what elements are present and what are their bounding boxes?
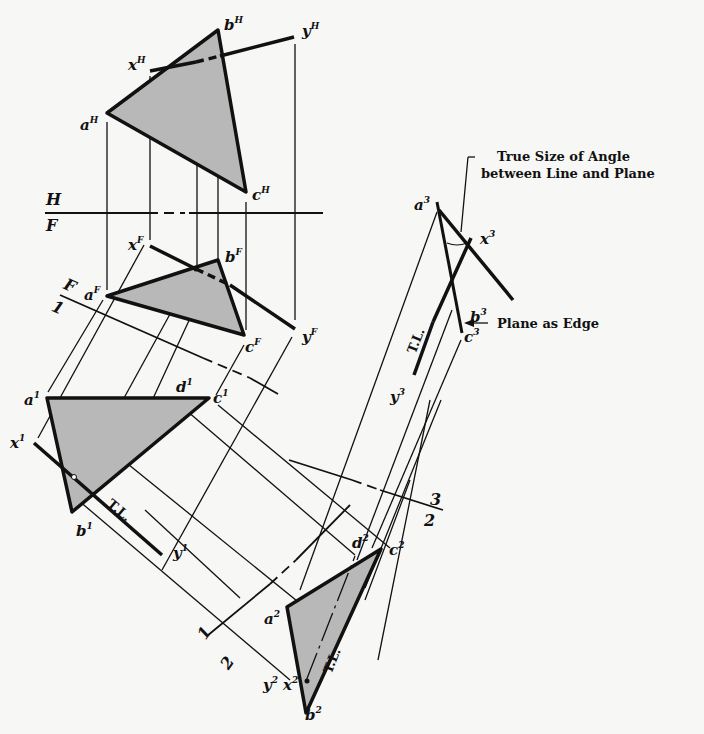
true-size-line1: True Size of Angle <box>481 148 655 165</box>
label-cF: cF <box>245 340 261 355</box>
label-aH: aH <box>80 118 98 133</box>
label-c3: c3 <box>464 330 479 345</box>
label-x3: x3 <box>480 232 495 247</box>
label-yH: yH <box>302 24 319 39</box>
fold-label-H: H <box>46 192 61 208</box>
label-d1: d1 <box>176 380 193 395</box>
plane-as-edge-note: Plane as Edge <box>497 315 599 332</box>
label-x2: x2 <box>283 678 298 693</box>
angle-arc <box>447 243 467 245</box>
label-y3: y3 <box>390 390 405 405</box>
descriptive-geometry-drawing: H F F 1 1 2 3 2 aH bH cH xH yH aF bF cF … <box>0 0 704 734</box>
label-aF: aF <box>84 288 100 303</box>
label-a1: a1 <box>24 393 40 408</box>
true-size-line2: between Line and Plane <box>481 165 655 182</box>
label-yF: yF <box>302 330 317 345</box>
true-size-angle-note: True Size of Angle between Line and Plan… <box>481 148 655 182</box>
label-d2: d2 <box>352 536 369 551</box>
label-cH: cH <box>252 188 270 203</box>
label-xF: xF <box>128 238 143 253</box>
label-a2: a2 <box>264 612 280 627</box>
fold-label-23-upper: 3 <box>430 492 441 508</box>
label-y2: y2 <box>263 678 278 693</box>
label-b2: b2 <box>305 708 322 723</box>
label-y1: y1 <box>173 546 188 561</box>
label-b1: b1 <box>76 524 93 539</box>
label-x1: x1 <box>10 436 25 451</box>
fold-label-23-lower: 2 <box>424 513 435 529</box>
label-a3: a3 <box>414 198 430 213</box>
label-xH: xH <box>128 58 145 73</box>
label-bH: bH <box>224 18 243 33</box>
fold-label-F: F <box>46 218 57 234</box>
label-c1: c1 <box>213 391 228 406</box>
label-b3: b3 <box>470 310 487 325</box>
label-c2: c2 <box>389 543 404 558</box>
label-bF: bF <box>225 250 242 265</box>
drawing-lines <box>0 0 704 734</box>
